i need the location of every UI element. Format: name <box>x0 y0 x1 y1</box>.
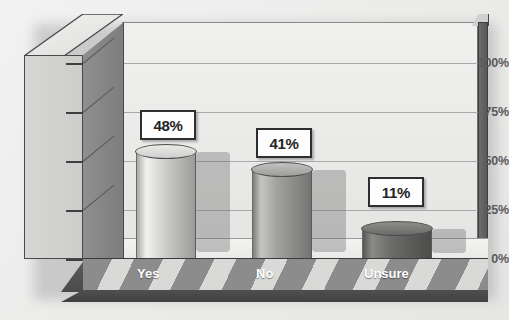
chart-figure: 100% 75% 50% 25% 0% Yes No Unsure 48% 41… <box>0 0 509 320</box>
bar-shadow-unsure <box>432 229 466 253</box>
category-label-no: No <box>256 266 273 281</box>
bar-yes-body <box>136 152 196 259</box>
bar-shadow-yes <box>196 152 230 252</box>
y-axis-front-face <box>24 55 83 259</box>
y-tick-label-25: 25% <box>453 203 509 217</box>
value-label-unsure: 11% <box>368 177 424 207</box>
bar-yes[interactable] <box>136 152 196 259</box>
chart-base-strip <box>61 290 488 302</box>
y-tick-dash-0 <box>66 259 83 261</box>
y-tick-dash-100 <box>66 63 83 65</box>
category-label-unsure: Unsure <box>364 266 409 281</box>
y-tick-dash-75 <box>66 112 83 114</box>
y-tick-label-50: 50% <box>453 154 509 168</box>
y-tick-label-75: 75% <box>453 105 509 119</box>
bar-no-body <box>252 170 312 259</box>
y-tick-dash-50 <box>66 161 83 163</box>
bar-no[interactable] <box>252 170 312 259</box>
gridline-100 <box>122 63 478 64</box>
y-tick-dash-25 <box>66 210 83 212</box>
category-label-yes: Yes <box>137 266 159 281</box>
bar-yes-cap <box>135 144 197 159</box>
bar-unsure-cap <box>361 221 433 236</box>
bar-unsure[interactable] <box>362 229 432 259</box>
value-label-no: 41% <box>256 128 312 158</box>
y-tick-label-100: 100% <box>453 56 509 70</box>
bar-no-cap <box>251 162 313 177</box>
value-label-yes: 48% <box>140 110 196 140</box>
y-axis-tick-extensions <box>83 22 123 259</box>
bar-shadow-no <box>312 170 346 252</box>
